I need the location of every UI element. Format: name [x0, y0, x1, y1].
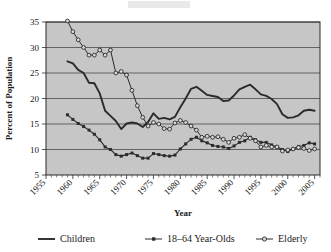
data-point-marker: [130, 152, 133, 155]
y-tick-label: 30: [30, 43, 40, 53]
data-point-marker: [173, 154, 176, 157]
data-point-marker: [157, 153, 160, 156]
data-point-marker: [308, 141, 311, 144]
data-point-marker: [211, 135, 215, 139]
data-point-marker: [66, 113, 69, 116]
data-point-marker: [178, 119, 182, 123]
data-point-marker: [114, 153, 117, 156]
data-point-marker: [264, 144, 268, 148]
data-point-marker: [125, 153, 128, 156]
data-point-marker: [87, 53, 91, 57]
data-point-marker: [104, 145, 107, 148]
data-point-marker: [87, 129, 90, 132]
data-point-marker: [152, 152, 155, 155]
data-point-marker: [205, 134, 209, 138]
data-point-marker: [66, 19, 70, 23]
data-point-marker: [173, 121, 177, 125]
data-point-marker: [248, 136, 252, 140]
line-chart: 5101520253035 19551960196519701975198019…: [0, 0, 331, 252]
y-tick-label: 10: [30, 145, 40, 155]
data-point-marker: [168, 127, 172, 131]
data-point-marker: [291, 147, 295, 151]
data-point-marker: [307, 149, 311, 153]
data-point-marker: [190, 138, 193, 141]
x-axis-title: Year: [174, 208, 192, 218]
data-point-marker: [163, 154, 166, 157]
data-point-marker: [125, 73, 129, 77]
data-point-marker: [238, 135, 242, 139]
poverty-rate-chart-figure: 5101520253035 19551960196519701975198019…: [0, 0, 331, 252]
data-point-marker: [297, 146, 301, 150]
data-point-marker: [286, 148, 290, 152]
data-point-marker: [270, 145, 274, 149]
data-point-marker: [71, 30, 75, 34]
legend-label: Elderly: [278, 233, 307, 244]
data-point-marker: [216, 135, 220, 139]
scan-artifact: [128, 1, 190, 8]
y-tick-label: 25: [30, 68, 40, 78]
data-point-marker: [162, 127, 166, 131]
data-point-marker: [313, 147, 317, 151]
data-point-marker: [93, 133, 96, 136]
data-point-marker: [200, 135, 204, 139]
data-point-marker: [82, 125, 85, 128]
data-point-marker: [254, 139, 258, 143]
data-point-marker: [120, 155, 123, 158]
data-point-marker: [146, 124, 150, 128]
data-point-marker: [302, 147, 306, 151]
data-point-marker: [238, 141, 241, 144]
data-point-marker: [76, 38, 80, 42]
data-point-marker: [200, 139, 203, 142]
y-tick-label: 15: [30, 119, 40, 129]
data-point-marker: [136, 154, 139, 157]
data-point-marker: [243, 139, 246, 142]
legend-label: 18–64 Year-Olds: [167, 233, 235, 244]
y-tick-label: 35: [30, 17, 40, 27]
data-point-marker: [130, 88, 134, 92]
plot-area: [46, 22, 320, 175]
data-point-marker: [222, 145, 225, 148]
data-point-marker: [259, 141, 262, 144]
data-point-marker: [227, 140, 231, 144]
data-point-marker: [109, 48, 113, 52]
data-point-marker: [98, 48, 102, 52]
data-point-marker: [147, 157, 150, 160]
legend-label: Children: [60, 233, 95, 244]
data-point-marker: [184, 121, 188, 125]
data-point-marker: [221, 137, 225, 141]
data-point-marker: [243, 133, 247, 137]
data-point-marker: [233, 144, 236, 147]
data-point-marker: [71, 118, 74, 121]
data-point-marker: [77, 122, 80, 125]
data-point-marker: [103, 53, 107, 57]
data-point-marker: [119, 70, 123, 74]
data-point-marker: [195, 136, 198, 139]
data-point-marker: [152, 121, 156, 125]
data-point-marker: [189, 124, 193, 128]
legend-square-marker: [152, 237, 155, 240]
data-point-marker: [168, 155, 171, 158]
data-point-marker: [259, 145, 263, 149]
data-point-marker: [141, 157, 144, 160]
data-point-marker: [92, 53, 96, 57]
data-point-marker: [232, 136, 236, 140]
data-point-marker: [135, 104, 139, 108]
data-point-marker: [206, 141, 209, 144]
data-point-marker: [184, 142, 187, 145]
data-point-marker: [98, 138, 101, 141]
y-tick-label: 20: [30, 94, 40, 104]
y-axis-title: Percent of Population: [4, 57, 14, 140]
data-point-marker: [313, 142, 316, 145]
data-point-marker: [157, 122, 161, 126]
data-point-marker: [227, 147, 230, 150]
data-point-marker: [179, 147, 182, 150]
data-point-marker: [114, 71, 118, 75]
data-point-marker: [216, 145, 219, 148]
data-point-marker: [275, 145, 279, 149]
data-point-marker: [280, 149, 284, 153]
data-point-marker: [109, 148, 112, 151]
data-point-marker: [195, 128, 199, 132]
data-point-marker: [141, 115, 145, 119]
legend-circle-marker: [262, 237, 266, 241]
data-point-marker: [211, 144, 214, 147]
